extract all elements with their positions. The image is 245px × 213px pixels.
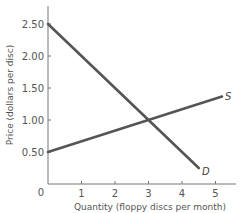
supply-curve — [48, 97, 222, 153]
supply-demand-chart: 0.50 1.00 1.50 2.00 2.50 0 1 2 3 4 5 Qua… — [0, 0, 245, 213]
origin-label: 0 — [38, 187, 44, 198]
supply-curve-label: S — [225, 91, 232, 102]
x-axis-title: Quantity (floppy discs per month) — [74, 202, 226, 212]
x-tick-label: 4 — [179, 188, 185, 199]
demand-curve-label: D — [202, 166, 210, 177]
x-tick-label: 5 — [212, 188, 218, 199]
y-tick-label: 0.50 — [22, 147, 44, 158]
y-tick-label: 2.50 — [22, 19, 44, 30]
y-tick-label: 1.00 — [22, 115, 44, 126]
y-tick-label: 1.50 — [22, 83, 44, 94]
demand-curve — [48, 24, 199, 168]
y-axis-title: Price (dollars per disc) — [5, 45, 15, 146]
y-tick-label: 2.00 — [22, 51, 44, 62]
x-tick-label: 1 — [78, 188, 84, 199]
x-tick-label: 2 — [112, 188, 118, 199]
x-tick-label: 3 — [145, 188, 151, 199]
